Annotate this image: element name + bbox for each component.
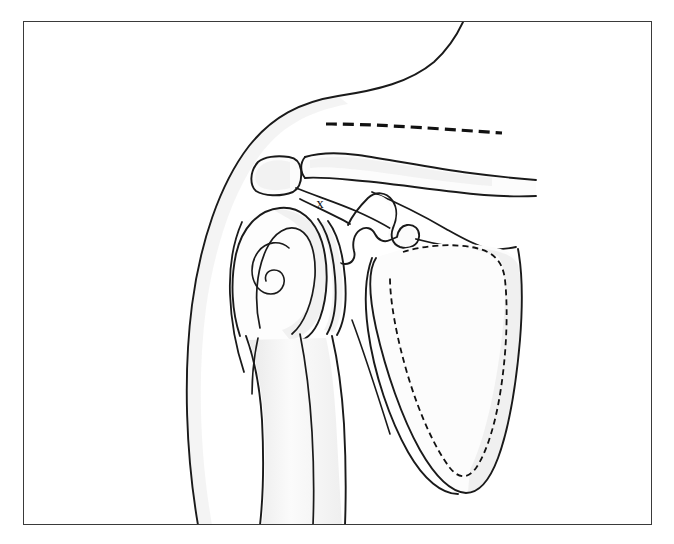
x-marker: x [316,195,324,211]
shoulder-anatomy-drawing: x [0,0,674,544]
figure-page: x Deltoid / soft-tissue outline Neck / t… [0,0,674,544]
acromion-group [251,156,301,195]
x-marker-group: x [316,195,324,211]
